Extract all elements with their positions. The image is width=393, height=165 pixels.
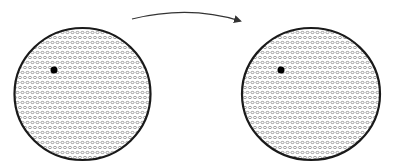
curved-arrow-icon <box>132 12 240 21</box>
right-circle-dot <box>278 67 285 74</box>
left-circle-body <box>15 28 151 160</box>
left-circle-dot <box>51 67 58 74</box>
diagram-svg <box>0 0 393 165</box>
right-circle <box>242 28 380 160</box>
left-circle <box>15 28 151 160</box>
right-circle-body <box>242 28 380 160</box>
diagram-canvas <box>0 0 393 165</box>
